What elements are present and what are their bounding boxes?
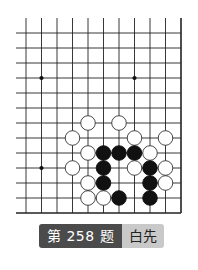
turn-indicator-label: 白先 [122, 224, 164, 248]
black-stone [143, 161, 158, 176]
white-stone [158, 131, 173, 146]
black-stone [143, 191, 158, 206]
white-stone [96, 191, 111, 206]
black-stone [96, 146, 111, 161]
black-stone [96, 176, 111, 191]
black-stone [96, 161, 111, 176]
white-stone [112, 116, 127, 131]
white-stone [81, 116, 96, 131]
problem-number-label: 第 258 题 [39, 224, 122, 248]
black-stone [112, 146, 127, 161]
black-stone [127, 146, 142, 161]
white-stone [65, 161, 80, 176]
black-stone [112, 191, 127, 206]
star-point-icon [39, 166, 43, 170]
white-stone [65, 131, 80, 146]
star-point-icon [132, 76, 136, 80]
white-stone [158, 161, 173, 176]
white-stone [127, 131, 142, 146]
white-stone [158, 176, 173, 191]
go-board[interactable] [0, 0, 198, 222]
star-point-icon [39, 76, 43, 80]
stones-layer [65, 116, 173, 206]
white-stone [127, 161, 142, 176]
white-stone [81, 176, 96, 191]
white-stone [143, 146, 158, 161]
problem-caption: 第 258 题 白先 [39, 224, 164, 248]
black-stone [143, 176, 158, 191]
white-stone [81, 191, 96, 206]
white-stone [81, 146, 96, 161]
